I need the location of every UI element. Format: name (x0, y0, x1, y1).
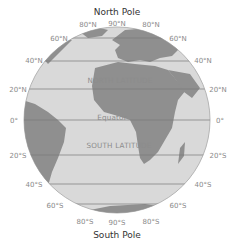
lat-40n-left: 40°N (25, 57, 43, 65)
lat-60n-left: 60°N (50, 35, 68, 43)
lat-20n-right: 20°N (209, 86, 227, 94)
lat-0-left: 0° (10, 117, 18, 125)
lat-80n-right: 80°N (142, 21, 160, 29)
lat-80n-left: 80°N (79, 21, 97, 29)
lat-0-right: 0° (216, 117, 224, 125)
lat-20s-right: 20°S (210, 152, 227, 160)
globe-diagram: North Pole South Pole 90°N 80°N 80°N 60°… (0, 0, 236, 244)
north-latitude-label: NORTH LATITUDE (87, 76, 152, 85)
lat-20n-left: 20°N (9, 86, 27, 94)
lat-20s-left: 20°S (10, 152, 27, 160)
lat-40s-left: 40°S (26, 181, 43, 189)
lat-40n-right: 40°N (194, 57, 212, 65)
equator-label: Equator (97, 113, 127, 122)
lat-90s: 90°S (109, 219, 126, 227)
lat-80s-left: 80°S (77, 218, 94, 226)
lat-80s-right: 80°S (143, 218, 160, 226)
north-pole-label: North Pole (94, 7, 141, 17)
lat-60s-left: 60°S (47, 202, 64, 210)
lat-60n-right: 60°N (169, 35, 187, 43)
lat-90n: 90°N (108, 20, 126, 28)
lat-60s-right: 60°S (170, 202, 187, 210)
south-latitude-label: SOUTH LATITUDE (86, 141, 151, 150)
south-pole-label: South Pole (93, 230, 141, 240)
lat-40s-right: 40°S (195, 181, 212, 189)
